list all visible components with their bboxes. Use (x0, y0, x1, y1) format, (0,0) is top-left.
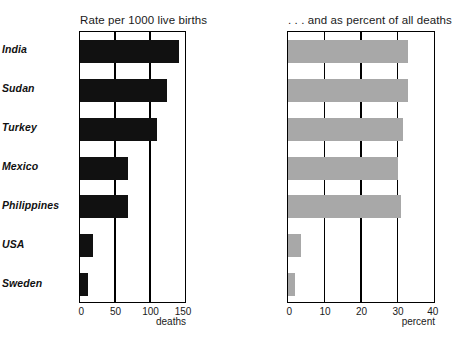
bar-sweden (80, 273, 88, 296)
chart-root: Rate per 1000 live births . . . and as p… (0, 0, 452, 356)
category-label-sudan: Sudan (2, 82, 76, 94)
bar-mexico (80, 157, 128, 180)
category-label-mexico: Mexico (2, 160, 76, 172)
bar-mexico (288, 157, 398, 180)
bar-sudan (80, 79, 167, 102)
bar-sweden (288, 273, 295, 296)
bar-turkey (288, 118, 403, 141)
right-plot-area (287, 31, 435, 303)
gridline-100 (149, 32, 151, 302)
category-labels: IndiaSudanTurkeyMexicoPhilippinesUSASwed… (0, 0, 76, 356)
left-axis-unit: deaths (156, 316, 186, 327)
xtick-1-0: 0 (287, 306, 293, 317)
category-label-sweden: Sweden (2, 277, 76, 289)
category-label-usa: USA (2, 238, 76, 250)
bar-usa (288, 234, 301, 257)
xtick-1-20: 20 (356, 306, 367, 317)
xtick-0-0: 0 (79, 306, 85, 317)
bar-sudan (288, 79, 408, 102)
xtick-0-50: 50 (110, 306, 121, 317)
bar-philippines (80, 195, 128, 218)
left-plot-area (79, 31, 186, 303)
right-axis-unit: percent (402, 316, 435, 327)
bar-india (80, 40, 179, 63)
left-panel-title: Rate per 1000 live births (80, 14, 207, 26)
bar-philippines (288, 195, 401, 218)
bar-usa (80, 234, 93, 257)
category-label-philippines: Philippines (2, 199, 76, 211)
xtick-1-10: 10 (319, 306, 330, 317)
bar-india (288, 40, 408, 63)
right-panel-title: . . . and as percent of all deaths (288, 14, 452, 26)
bar-turkey (80, 118, 157, 141)
category-label-india: India (2, 43, 76, 55)
category-label-turkey: Turkey (2, 121, 76, 133)
